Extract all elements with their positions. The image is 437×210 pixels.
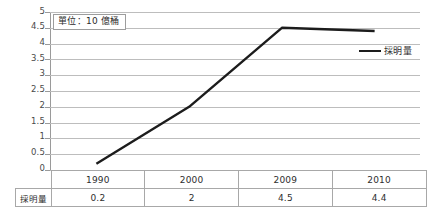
- series-line-group: [50, 12, 420, 170]
- table-row-header: 1990 2000 2009 2010: [16, 171, 427, 189]
- table-header-cell-year: 2010: [332, 171, 426, 189]
- y-axis-tick-label: 2.5: [3, 85, 45, 94]
- y-axis-tick-label: 3.5: [3, 54, 45, 63]
- y-axis-tick-label: 1: [3, 132, 45, 141]
- chart-legend: 採明量: [357, 45, 414, 57]
- plot-area: [50, 12, 420, 170]
- table-header-cell-year: 2009: [239, 171, 333, 189]
- y-axis-tick-label: 0.5: [3, 148, 45, 157]
- table-cell-value: 0.2: [51, 189, 145, 207]
- legend-line-swatch: [359, 50, 381, 53]
- y-axis-tick-label: 5: [3, 7, 45, 16]
- table-header-cell-year: 2000: [145, 171, 239, 189]
- y-axis-tick-label: 3: [3, 69, 45, 78]
- series-line-proven-reserves: [96, 28, 374, 164]
- table-cell-value: 2: [145, 189, 239, 207]
- y-axis-tick-label: 2: [3, 101, 45, 110]
- data-table: 1990 2000 2009 2010 採明量 0.2 2 4.5 4.4: [15, 170, 427, 207]
- table-cell-value: 4.4: [332, 189, 426, 207]
- y-axis-tick-label: 4.5: [3, 22, 45, 31]
- legend-label: 採明量: [384, 46, 412, 56]
- table-corner-cell: [16, 171, 52, 189]
- table-header-cell-year: 1990: [51, 171, 145, 189]
- unit-annotation-box: 單位：10 億桶: [53, 14, 126, 30]
- table-row-header-cell: 採明量: [16, 189, 52, 207]
- y-axis-tick-label: 1.5: [3, 117, 45, 126]
- table-row: 採明量 0.2 2 4.5 4.4: [16, 189, 427, 207]
- y-axis-tick-label: 4: [3, 38, 45, 47]
- table-cell-value: 4.5: [239, 189, 333, 207]
- line-chart-with-data-table: 5 4.5 4 3.5 3 2.5 2 1.5 1 0.5 0: [0, 0, 437, 210]
